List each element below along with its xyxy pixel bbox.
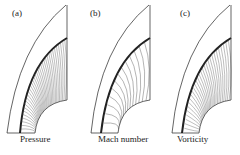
panel-pressure: (a) Pressure bbox=[0, 0, 80, 155]
panel-vorticity: (c) Vorticity bbox=[155, 0, 235, 155]
panel-caption: Pressure bbox=[20, 134, 51, 144]
panel-mach-number: (b) Mach number bbox=[78, 0, 158, 155]
mach-number-contour-plot bbox=[78, 0, 158, 135]
pressure-contour-plot bbox=[0, 0, 80, 135]
vorticity-contour-plot bbox=[155, 0, 235, 135]
panel-caption: Mach number bbox=[98, 134, 148, 144]
panel-caption: Vorticity bbox=[177, 134, 208, 144]
